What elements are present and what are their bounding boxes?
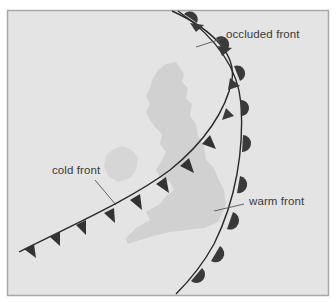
cold-front-label: cold front [52, 164, 100, 176]
weather-fronts-diagram [0, 0, 336, 302]
occluded-front-label: occluded front [226, 28, 300, 40]
warm-front-label: warm front [249, 195, 304, 207]
